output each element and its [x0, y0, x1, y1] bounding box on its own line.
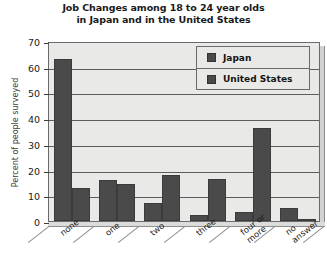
y-tick-label-30: 30	[28, 139, 40, 150]
bar-japan-no-answer	[280, 208, 298, 221]
bar-united-states-one	[117, 184, 135, 221]
legend-label-japan: Japan	[223, 53, 251, 63]
bar-united-states-four-or-more	[253, 128, 271, 221]
chart-title-line-2: in Japan and in the United States	[0, 14, 327, 26]
y-tick-label-10: 10	[28, 191, 40, 202]
x-axis-leader-rule	[28, 226, 49, 243]
plot-right-wall	[320, 46, 325, 226]
x-axis-leader-rule	[209, 226, 230, 243]
y-tick-label-0: 0	[34, 217, 40, 228]
bar-japan-two	[144, 203, 162, 221]
y-tick-label-40: 40	[28, 114, 40, 125]
y-axis-tick-labels: 010203040506070	[0, 42, 46, 222]
bar-united-states-three	[208, 179, 226, 221]
y-tick-0	[44, 223, 49, 224]
bar-japan-one	[99, 180, 117, 221]
bar-japan-none	[54, 59, 72, 221]
x-axis-leader-rule	[73, 226, 94, 243]
x-axis-leader-rule	[164, 226, 185, 243]
legend-swatch-icon-united-states	[207, 75, 216, 84]
bar-chart: Job Changes among 18 to 24 year olds in …	[0, 0, 327, 273]
bar-united-states-two	[162, 175, 180, 221]
y-tick-label-20: 20	[28, 165, 40, 176]
y-tick-label-60: 60	[28, 62, 40, 73]
legend-label-united-states: United States	[223, 74, 292, 84]
legend-item-japan: Japan	[197, 47, 309, 68]
plot-floor	[48, 222, 325, 227]
x-axis-leader-rule	[118, 226, 139, 243]
chart-title-line-1: Job Changes among 18 to 24 year olds	[0, 2, 327, 14]
y-tick-label-70: 70	[28, 37, 40, 48]
legend-swatch-icon-japan	[207, 53, 216, 62]
chart-title: Job Changes among 18 to 24 year olds in …	[0, 2, 327, 25]
y-tick-label-50: 50	[28, 88, 40, 99]
chart-legend: Japan United States	[196, 46, 310, 90]
legend-item-united-states: United States	[197, 68, 309, 89]
